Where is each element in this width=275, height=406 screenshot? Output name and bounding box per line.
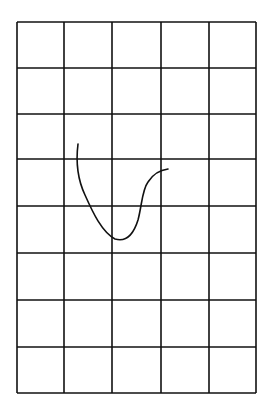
grid-lines [17, 22, 256, 393]
grid-diagram [0, 0, 275, 406]
